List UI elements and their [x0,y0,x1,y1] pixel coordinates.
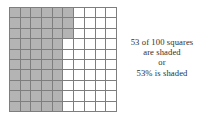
grid-cell-unshaded [74,102,84,111]
grid-cell-unshaded [96,70,106,79]
grid-cell-unshaded [85,39,95,48]
grid-cell-shaded [42,91,52,100]
grid-cell-shaded [53,60,63,69]
grid-cell-unshaded [96,102,106,111]
percent-grid-figure: 53 of 100 squares are shaded or 53% is s… [0,0,203,117]
grid-cell-unshaded [63,91,73,100]
grid-cell-shaded [21,91,31,100]
grid-cell-unshaded [85,70,95,79]
grid-cell-unshaded [63,102,73,111]
grid-cell-shaded [31,8,41,17]
grid-cell-shaded [10,18,20,27]
grid-cell-unshaded [106,91,116,100]
grid-cell-unshaded [85,91,95,100]
grid-cell-shaded [63,29,73,38]
grid-cell-unshaded [106,102,116,111]
grid-cell-shaded [21,50,31,59]
grid-cell-unshaded [96,29,106,38]
caption-line-4: 53% is shaded [121,68,203,78]
grid-cell-unshaded [85,8,95,17]
caption-line-2: are shaded [121,47,203,57]
grid-cell-shaded [31,18,41,27]
grid-cell-unshaded [96,60,106,69]
grid-cell-unshaded [63,70,73,79]
grid-cell-shaded [21,29,31,38]
caption-block: 53 of 100 squares are shaded or 53% is s… [121,37,203,78]
grid-cell-shaded [42,29,52,38]
grid-cell-shaded [42,50,52,59]
grid-cell-unshaded [63,81,73,90]
grid-cell-unshaded [63,39,73,48]
grid-cell-shaded [31,70,41,79]
grid-cell-unshaded [74,8,84,17]
grid-cell-unshaded [85,29,95,38]
caption-line-1: 53 of 100 squares [121,37,203,47]
grid-cell-shaded [21,60,31,69]
grid-cell-shaded [31,91,41,100]
grid-cell-unshaded [74,81,84,90]
grid-cell-unshaded [96,50,106,59]
grid-cell-shaded [21,8,31,17]
grid-cell-shaded [21,70,31,79]
grid-cell-shaded [42,18,52,27]
grid-cell-shaded [10,91,20,100]
grid-cell-unshaded [74,50,84,59]
grid-cell-shaded [42,39,52,48]
grid-cell-unshaded [85,18,95,27]
grid-cell-shaded [10,60,20,69]
grid-cell-shaded [42,70,52,79]
grid-cell-unshaded [96,18,106,27]
grid-cell-unshaded [85,60,95,69]
grid-cell-unshaded [63,50,73,59]
grid-cell-shaded [53,8,63,17]
grid-cell-shaded [31,29,41,38]
grid-cell-unshaded [106,29,116,38]
grid-cell-shaded [53,81,63,90]
grid-cell-shaded [21,81,31,90]
grid-cell-shaded [63,8,73,17]
grid-cell-shaded [10,29,20,38]
grid-cell-unshaded [85,50,95,59]
grid-cell-unshaded [74,60,84,69]
grid-cell-shaded [10,50,20,59]
grid-cell-shaded [31,102,41,111]
grid-cell-shaded [53,29,63,38]
grid-cell-shaded [63,18,73,27]
grid-cell-unshaded [96,39,106,48]
grid-cell-shaded [10,39,20,48]
grid-cell-unshaded [96,91,106,100]
grid-cell-shaded [21,18,31,27]
grid-cell-shaded [31,60,41,69]
grid-cell-shaded [53,50,63,59]
grid-cell-unshaded [106,39,116,48]
hundred-square-grid [9,7,117,112]
grid-cell-unshaded [106,81,116,90]
grid-cell-unshaded [96,81,106,90]
grid-cell-unshaded [85,81,95,90]
grid-cell-unshaded [106,18,116,27]
grid-cell-shaded [42,60,52,69]
grid-cell-shaded [53,18,63,27]
grid-cell-shaded [53,70,63,79]
grid-cell-unshaded [106,8,116,17]
grid-cell-shaded [42,81,52,90]
grid-cell-shaded [31,81,41,90]
grid-cell-shaded [31,39,41,48]
grid-cell-shaded [21,39,31,48]
grid-cell-unshaded [106,60,116,69]
grid-cell-unshaded [74,91,84,100]
grid-cell-unshaded [106,70,116,79]
grid-cell-unshaded [85,102,95,111]
grid-cell-unshaded [96,8,106,17]
caption-line-3: or [121,57,203,67]
grid-cell-shaded [42,8,52,17]
grid-cell-shaded [21,102,31,111]
grid-cell-unshaded [106,50,116,59]
grid-cell-unshaded [63,60,73,69]
grid-cell-shaded [53,39,63,48]
grid-cell-unshaded [74,29,84,38]
grid-cell-unshaded [74,39,84,48]
grid-cell-shaded [53,91,63,100]
grid-cell-unshaded [74,18,84,27]
grid-cell-shaded [31,50,41,59]
